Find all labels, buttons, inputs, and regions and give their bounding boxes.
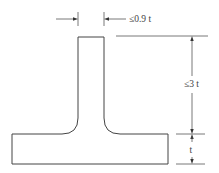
flange-thickness-bottom-arrowhead	[190, 159, 193, 164]
flange-thickness-label: t	[190, 145, 193, 155]
tee-section-outline	[12, 37, 168, 164]
stem-height-bottom-arrowhead	[190, 129, 193, 134]
stem-width-right-arrowhead	[104, 17, 109, 20]
tee-section-diagram: ≤0.9 t ≤3 t t	[0, 0, 219, 173]
stem-width-label: ≤0.9 t	[129, 14, 151, 24]
stem-width-left-arrowhead	[73, 17, 78, 20]
stem-height-label: ≤3 t	[184, 79, 199, 89]
stem-height-top-arrowhead	[190, 36, 193, 41]
